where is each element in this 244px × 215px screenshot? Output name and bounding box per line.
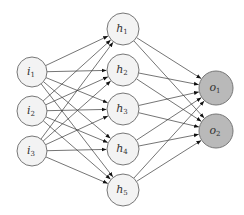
network-nodes: i1i2i3h1h2h3h4h5o1o2 (17, 13, 233, 206)
hidden-node-h2: h2 (107, 54, 139, 86)
edge-h5-o1 (134, 101, 204, 178)
input-node-i2: i2 (17, 96, 47, 126)
output-node-o2: o2 (199, 114, 233, 148)
edge-h1-o1 (137, 38, 202, 79)
edge-i3-h1 (41, 42, 113, 139)
edge-h1-o2 (134, 41, 204, 118)
output-node-o1: o1 (199, 71, 233, 105)
edge-h5-o2 (137, 140, 202, 181)
edge-h3-o2 (139, 113, 199, 127)
input-node-i1: i1 (17, 57, 47, 87)
edge-h3-o1 (139, 92, 199, 106)
hidden-node-h4: h4 (107, 133, 139, 165)
hidden-node-h1: h1 (107, 13, 139, 45)
input-node-i3: i3 (17, 136, 47, 166)
edge-h2-o1 (139, 73, 199, 85)
neural-network-diagram: i1i2i3h1h2h3h4h5o1o2 (0, 0, 244, 215)
edge-i3-h5 (46, 157, 108, 184)
hidden-node-h5: h5 (107, 174, 139, 206)
hidden-node-h3: h3 (107, 93, 139, 125)
